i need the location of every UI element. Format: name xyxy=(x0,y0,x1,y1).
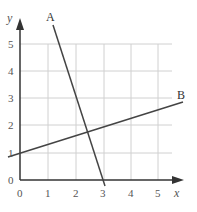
line-b xyxy=(8,102,183,157)
line-b-label: B xyxy=(177,88,185,102)
y-tick-5: 5 xyxy=(8,38,14,50)
x-tick-1: 1 xyxy=(45,187,51,199)
x-tick-3: 3 xyxy=(100,187,106,199)
y-axis-arrow-icon xyxy=(16,18,24,30)
x-tick-2: 2 xyxy=(73,187,79,199)
x-axis-arrow-icon xyxy=(172,176,184,184)
x-tick-4: 4 xyxy=(128,187,134,199)
y-tick-2: 2 xyxy=(8,119,14,131)
origin-label: 0 xyxy=(8,174,14,186)
x-axis-label: x xyxy=(173,186,180,200)
x-tick-5: 5 xyxy=(155,187,161,199)
y-tick-3: 3 xyxy=(8,92,14,104)
line-a-label: A xyxy=(46,10,55,24)
line-a xyxy=(53,25,105,186)
y-axis-label: y xyxy=(6,11,13,25)
axes xyxy=(20,26,176,180)
coordinate-graph: 0 1 2 3 4 5 x 0 1 2 3 4 5 y A B xyxy=(0,0,197,212)
y-tick-4: 4 xyxy=(8,65,14,77)
y-tick-1: 1 xyxy=(8,147,14,159)
x-tick-0: 0 xyxy=(17,187,23,199)
